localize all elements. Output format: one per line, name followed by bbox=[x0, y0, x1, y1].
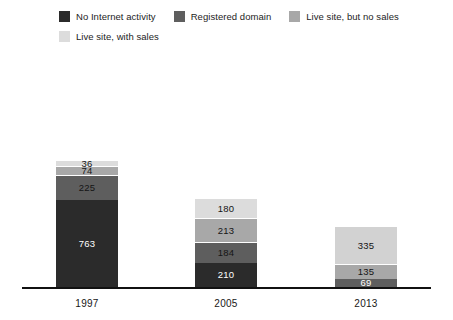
bar-segment-value: 210 bbox=[218, 270, 234, 280]
bar-segment-2005-live-site-but-no-sales[interactable]: 213 bbox=[195, 218, 257, 242]
bar-segment-value: 225 bbox=[79, 183, 95, 193]
bar-segment-1997-no-internet-activity[interactable]: 763 bbox=[56, 200, 118, 287]
bar-segment-value: 36 bbox=[82, 159, 93, 169]
bar-segment-value: 69 bbox=[361, 278, 372, 288]
bar-segment-value: 335 bbox=[358, 241, 374, 251]
bar-segment-value: 184 bbox=[218, 248, 234, 258]
stacked-bar-2013[interactable]: 69135335 bbox=[335, 226, 397, 287]
stacked-bar-2005[interactable]: 210184213180 bbox=[195, 198, 257, 287]
x-axis-label-2005: 2005 bbox=[195, 298, 257, 309]
bar-segment-value: 763 bbox=[79, 239, 95, 249]
bar-segment-value: 180 bbox=[218, 204, 234, 214]
bar-segment-2005-live-site-with-sales[interactable]: 180 bbox=[195, 198, 257, 218]
bar-segment-2005-registered-domain[interactable]: 184 bbox=[195, 242, 257, 263]
stacked-bar-1997[interactable]: 7632257436 bbox=[56, 160, 118, 287]
bar-segment-1997-registered-domain[interactable]: 225 bbox=[56, 175, 118, 201]
bar-segment-2013-no-internet-activity[interactable]: 69 bbox=[335, 279, 397, 287]
x-axis-label-2013: 2013 bbox=[335, 298, 397, 309]
bar-segment-value: 213 bbox=[218, 226, 234, 236]
chart-plot-area: 7632257436199721018421318020056913533520… bbox=[0, 0, 453, 320]
x-axis-label-1997: 1997 bbox=[56, 298, 118, 309]
bar-segment-2005-no-internet-activity[interactable]: 210 bbox=[195, 263, 257, 287]
bar-segment-value: 135 bbox=[358, 267, 374, 277]
bar-segment-2013-registered-domain[interactable]: 135 bbox=[335, 264, 397, 279]
bar-segment-2013-live-site-but-no-sales[interactable]: 335 bbox=[335, 226, 397, 264]
bar-segment-1997-live-site-with-sales[interactable]: 36 bbox=[56, 160, 118, 166]
